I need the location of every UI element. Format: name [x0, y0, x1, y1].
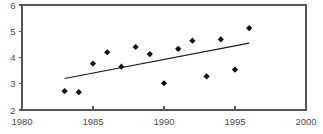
- x-tick-label-1985: 1985: [82, 116, 103, 127]
- data-point-1986: [104, 49, 110, 55]
- y-tick-label-4: 4: [10, 52, 15, 63]
- plot-frame: [22, 5, 306, 110]
- data-point-1996: [246, 25, 252, 31]
- data-point-1995: [232, 66, 238, 72]
- trend-line: [65, 43, 250, 78]
- data-point-1991: [175, 46, 181, 52]
- data-point-1992: [189, 38, 195, 44]
- data-point-1984: [76, 89, 82, 95]
- chart-plot-area: 2345619801985199019952000: [0, 0, 323, 134]
- data-point-1988: [133, 44, 139, 50]
- scatter-chart: 2345619801985199019952000: [0, 0, 323, 134]
- data-point-1990: [161, 80, 167, 86]
- y-tick-label-6: 6: [10, 0, 15, 11]
- data-point-1983: [62, 88, 68, 94]
- y-tick-label-3: 3: [10, 78, 15, 89]
- data-point-1985: [90, 60, 96, 66]
- y-tick-label-2: 2: [10, 105, 15, 116]
- x-tick-label-1980: 1980: [11, 116, 32, 127]
- data-point-1993: [204, 73, 210, 79]
- x-tick-label-2000: 2000: [295, 116, 316, 127]
- data-point-1989: [147, 51, 153, 57]
- data-point-1994: [218, 36, 224, 42]
- data-point-group: [62, 25, 253, 95]
- data-point-1987: [118, 64, 124, 70]
- x-tick-label-1995: 1995: [224, 116, 245, 127]
- x-tick-label-1990: 1990: [153, 116, 174, 127]
- y-tick-label-5: 5: [10, 26, 15, 37]
